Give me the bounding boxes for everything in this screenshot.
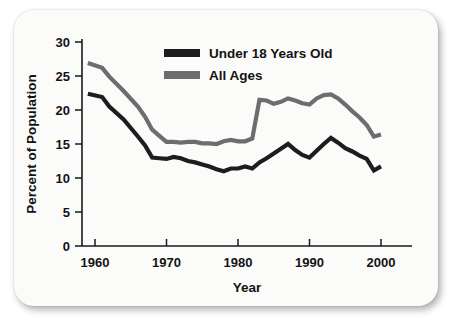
x-tick-label: 2000 [367, 255, 396, 270]
legend-swatch [164, 71, 200, 79]
legend-label: All Ages [209, 68, 263, 83]
legend-label: Under 18 Years Old [209, 46, 333, 61]
y-tick-label: 5 [63, 205, 70, 220]
series-line [88, 94, 381, 172]
y-axis-ticks: 051015202530 [56, 35, 82, 254]
legend-swatch [164, 49, 200, 57]
x-tick-label: 1990 [295, 255, 324, 270]
x-axis-title: Year [233, 280, 262, 295]
x-tick-label: 1980 [224, 255, 253, 270]
x-axis-ticks: 19601970198019902000 [81, 239, 396, 270]
y-tick-label: 25 [56, 69, 70, 84]
line-chart: 051015202530 19601970198019902000 Percen… [14, 10, 438, 306]
y-tick-label: 30 [56, 35, 70, 50]
y-axis-title: Percent of Population [24, 74, 39, 214]
y-tick-label: 0 [63, 239, 70, 254]
y-tick-label: 20 [56, 103, 70, 118]
y-tick-label: 15 [56, 137, 70, 152]
chart-card: 051015202530 19601970198019902000 Percen… [14, 10, 438, 306]
chart-legend: Under 18 Years OldAll Ages [164, 46, 333, 83]
x-tick-label: 1960 [81, 255, 110, 270]
x-tick-label: 1970 [152, 255, 181, 270]
y-tick-label: 10 [56, 171, 70, 186]
chart-svg: 051015202530 19601970198019902000 Percen… [14, 10, 438, 306]
